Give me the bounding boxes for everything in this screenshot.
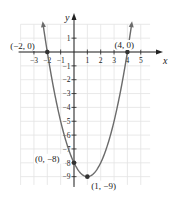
y-tick-label: −9 — [63, 172, 71, 181]
x-tick-label: 5 — [139, 56, 143, 65]
x-tick-label: 1 — [85, 56, 89, 65]
point-marker — [85, 174, 90, 179]
point-label: (−2, 0) — [10, 41, 35, 51]
x-tick-label: 3 — [112, 56, 116, 65]
x-tick-label: −2 — [43, 56, 51, 65]
y-tick-label: −3 — [63, 89, 71, 98]
parabola-graph: xy −3−2−1123451−1−2−3−4−5−6−7−8−9 (−2, 0… — [0, 0, 177, 197]
y-tick-label: 1 — [67, 34, 71, 43]
y-tick-label: −1 — [63, 62, 71, 71]
point-marker — [125, 50, 130, 55]
y-axis-arrow-icon — [72, 13, 77, 20]
x-tick-label: −3 — [30, 56, 38, 65]
y-tick-label: −2 — [63, 75, 71, 84]
y-tick-label: −5 — [63, 117, 71, 126]
y-axis-label: y — [64, 12, 70, 23]
point-marker — [45, 50, 50, 55]
y-tick-label: −4 — [63, 103, 71, 112]
point-label: (1, −9) — [91, 181, 116, 191]
point-marker — [72, 161, 77, 166]
x-axis-label: x — [162, 55, 168, 66]
point-label: (4, 0) — [114, 40, 133, 50]
x-axis-arrow-icon — [156, 50, 163, 55]
point-label: (0, −8) — [35, 154, 60, 164]
x-tick-label: 2 — [99, 56, 103, 65]
